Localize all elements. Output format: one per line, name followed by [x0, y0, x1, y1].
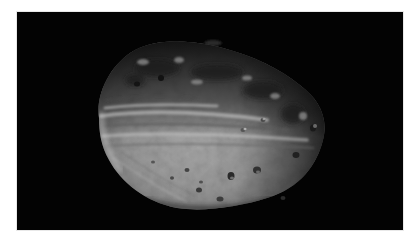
- asteroid: [87, 32, 337, 222]
- crater: [134, 82, 140, 87]
- crater: [199, 180, 203, 183]
- crater: [151, 161, 155, 164]
- crater: [196, 188, 202, 193]
- crater: [170, 176, 174, 180]
- crater: [185, 168, 190, 172]
- crater: [158, 75, 164, 81]
- crater: [228, 172, 235, 180]
- crater: [281, 196, 286, 200]
- photo-frame: [17, 12, 403, 230]
- crater: [293, 152, 300, 158]
- asteroid-photo: [17, 12, 403, 230]
- crater: [217, 197, 224, 202]
- crater: [253, 167, 261, 174]
